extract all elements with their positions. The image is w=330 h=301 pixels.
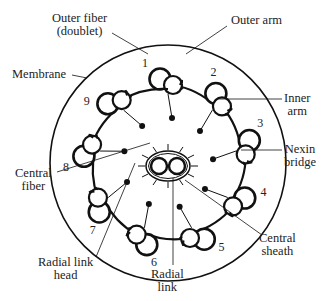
doublet-number: 8: [63, 160, 69, 175]
radial-link-head: [202, 186, 208, 192]
a-tubule: [213, 97, 231, 115]
sheath-projection: [188, 155, 194, 158]
inner-arm-icon: [225, 210, 226, 213]
a-tubule: [164, 76, 182, 94]
radial-link-head: [197, 128, 203, 134]
central-fiber-right: [169, 158, 185, 174]
inner-arm-icon: [243, 162, 245, 165]
doublet-number: 4: [260, 185, 266, 200]
label-text: (doublet): [52, 25, 107, 38]
sheath-projection: [142, 155, 148, 158]
label-nexin-bridge: Nexin bridge: [284, 143, 316, 169]
radial-link-head: [177, 204, 183, 210]
label-radial-link-head: Radial link head: [38, 256, 93, 282]
central-fiber-left: [151, 158, 167, 174]
radial-link: [180, 207, 192, 228]
label-text: arm: [284, 105, 310, 118]
radial-link: [144, 204, 148, 228]
label-text: fiber: [15, 180, 52, 193]
sheath-projection: [142, 174, 148, 177]
radial-link: [200, 110, 212, 131]
inner-arm-icon: [130, 96, 132, 99]
label-central-sheath: Central sheath: [259, 232, 296, 258]
doublet-number: 9: [84, 94, 90, 109]
outer-arm-icon: [89, 191, 94, 193]
sheath-projection: [153, 147, 157, 152]
a-tubule: [113, 91, 131, 109]
inner-arm-icon: [180, 88, 183, 89]
radial-link: [168, 94, 172, 118]
doublet-number: 2: [210, 65, 216, 80]
radial-link-head: [139, 123, 145, 129]
label-text: bridge: [284, 156, 316, 169]
label-radial-link: Radial link: [151, 268, 184, 294]
doublet-number: 5: [218, 240, 224, 255]
radial-link-head: [210, 156, 216, 162]
label-central-fiber: Central fiber: [15, 167, 52, 193]
sheath-projection: [153, 180, 157, 185]
doublet-number: 7: [90, 223, 96, 238]
doublet-number: 6: [151, 255, 157, 270]
label-outer-arm: Outer arm: [231, 14, 282, 27]
sheath-projection: [180, 180, 184, 185]
doublet-number: 1: [142, 56, 148, 71]
inner-arm-icon: [225, 114, 228, 115]
radial-link: [124, 110, 142, 126]
a-tubule: [83, 136, 101, 154]
a-tubule: [237, 145, 255, 163]
label-text: sheath: [259, 245, 296, 258]
a-tubule: [224, 197, 242, 215]
label-text: head: [38, 269, 93, 282]
outer-arm-icon: [182, 240, 183, 245]
doublet-number: 3: [257, 116, 263, 131]
label-outer-fiber: Outer fiber (doublet): [52, 12, 107, 38]
radial-link-head: [169, 115, 175, 121]
sheath-projection: [180, 147, 184, 152]
sheath-projection: [188, 174, 194, 177]
label-inner-arm: Inner arm: [284, 92, 310, 118]
radial-link-head: [146, 201, 152, 207]
radial-link: [213, 151, 236, 159]
label-text: link: [151, 281, 184, 294]
label-membrane: Membrane: [12, 68, 66, 81]
